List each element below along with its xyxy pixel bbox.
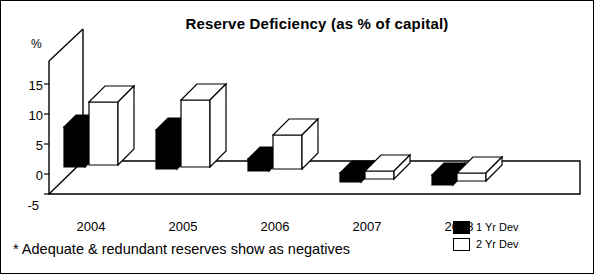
- chart-legend: 1 Yr Dev 2 Yr Dev: [453, 220, 519, 254]
- y-axis-ticks: [44, 84, 49, 194]
- legend-label-2yr: 2 Yr Dev: [476, 239, 519, 250]
- legend-swatch-white-icon: [453, 238, 470, 251]
- chart-annotation: * Adequate & redundant reserves show as …: [13, 241, 350, 257]
- chart-frame: Reserve Deficiency (as % of capital) % 1…: [0, 0, 594, 274]
- legend-label-1yr: 1 Yr Dev: [476, 222, 519, 233]
- legend-item-2yr: 2 Yr Dev: [453, 237, 519, 252]
- legend-item-1yr: 1 Yr Dev: [453, 220, 519, 235]
- bar-2005-2yr: [181, 84, 226, 167]
- bar-2004-2yr: [89, 86, 134, 165]
- legend-swatch-black-icon: [453, 221, 470, 234]
